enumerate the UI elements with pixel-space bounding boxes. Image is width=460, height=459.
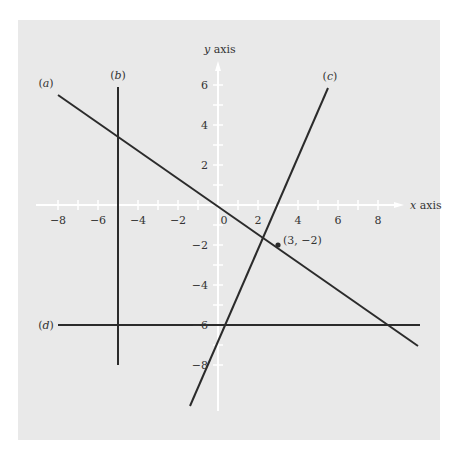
x-tick-label: −6 (90, 214, 106, 227)
x-tick-label: −2 (170, 214, 186, 227)
x-axis-arrow-icon (394, 202, 404, 208)
y-tick-label: −2 (192, 239, 208, 252)
line-b-label: (b) (110, 69, 126, 82)
line-a-label: (a) (38, 77, 53, 90)
x-tick-label: 6 (335, 214, 342, 227)
y-tick-label: 2 (201, 159, 208, 172)
point-label: (3, −2) (283, 234, 322, 247)
x-tick-label: −8 (50, 214, 66, 227)
x-tick-label: −4 (130, 214, 146, 227)
y-tick-label: −8 (192, 359, 208, 372)
x-tick-label: 4 (295, 214, 302, 227)
x-tick-label: 0 (221, 214, 228, 227)
y-tick-label: −6 (192, 319, 208, 332)
y-axis-arrow-icon (215, 61, 221, 71)
y-tick-label: −4 (192, 279, 208, 292)
y-tick-label: 4 (201, 119, 208, 132)
y-axis-label: y axis (203, 43, 236, 56)
x-axis-label: x axis (410, 199, 442, 212)
x-tick-label: 8 (375, 214, 382, 227)
line-a (58, 95, 418, 346)
line-c (190, 88, 328, 406)
line-d-label: (d) (38, 319, 54, 332)
line-c-label: (c) (323, 70, 338, 83)
coordinate-plane: −8−6−4−202468−8−6−4−2246x axisy axis(a)(… (0, 0, 460, 459)
y-tick-label: 6 (201, 79, 208, 92)
point-marker (275, 242, 280, 247)
x-tick-label: 2 (255, 214, 262, 227)
